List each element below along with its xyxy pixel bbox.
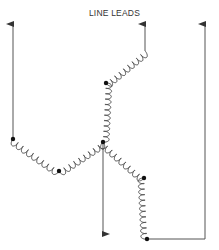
center-node xyxy=(101,140,105,144)
wye-winding-diagram xyxy=(0,0,219,250)
coil-right-upper xyxy=(101,142,144,181)
bottom-left-node xyxy=(57,169,61,173)
coil-top xyxy=(106,51,147,86)
coil-left-upper xyxy=(59,142,105,175)
coil-vertical-center xyxy=(103,83,112,142)
coil-right-vertical xyxy=(138,178,147,239)
coil-left-lower xyxy=(11,139,59,174)
bottom-right-node xyxy=(145,237,149,241)
right-mid-node xyxy=(142,176,146,180)
upper-node xyxy=(104,81,108,85)
left-node xyxy=(11,137,15,141)
